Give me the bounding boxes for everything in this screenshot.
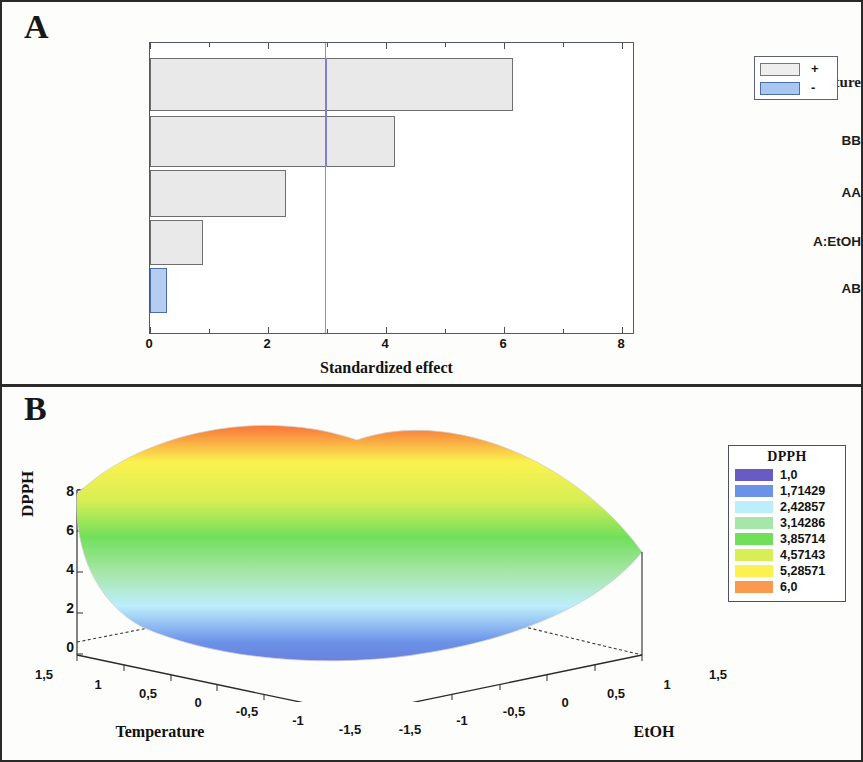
- response-surface: [42, 402, 682, 702]
- colorbar-swatch: [735, 485, 773, 497]
- bottom-tick: [445, 329, 446, 333]
- panel-a-label: A: [24, 8, 49, 46]
- colorbar-value-label: 3,85714: [780, 532, 825, 546]
- bottom-tick: [209, 329, 210, 333]
- legend-swatch-negative: [760, 82, 800, 95]
- bottom-tick: [327, 329, 328, 333]
- colorbar-level-row: 2,42857: [735, 499, 839, 515]
- x-axis-title: Standardized effect: [320, 359, 453, 377]
- colorbar-level-row: 4,57143: [735, 547, 839, 563]
- x-tick-label-4: 4: [381, 336, 388, 351]
- colorbar-swatch: [735, 581, 773, 593]
- legend-label-positive: +: [811, 64, 819, 74]
- colorbar-level-row: 1,71429: [735, 483, 839, 499]
- category-label-a-etoh: A:EtOH: [721, 234, 861, 249]
- colorbar-swatch: [735, 565, 773, 577]
- colorbar-value-label: 5,28571: [780, 564, 825, 578]
- bottom-tick: [150, 327, 151, 333]
- surface-plot-graphic: [2, 402, 702, 702]
- etoh-tick-neg1_5: -1,5: [399, 722, 421, 737]
- temperature-axis-title: Temperature: [116, 723, 205, 741]
- top-tick: [445, 43, 446, 47]
- colorbar-levels: 1,01,714292,428573,142863,857144,571435,…: [735, 467, 839, 595]
- colorbar-level-row: 1,0: [735, 467, 839, 483]
- legend-row-negative: -: [760, 80, 832, 96]
- pareto-bar-aa: [150, 170, 286, 217]
- colorbar-level-row: 5,28571: [735, 563, 839, 579]
- colorbar-value-label: 3,14286: [780, 516, 825, 530]
- colorbar-value-label: 1,71429: [780, 484, 825, 498]
- etoh-tick-1_5: 1,5: [709, 667, 727, 682]
- axis-box-front: [77, 655, 642, 702]
- x-tick-label-6: 6: [499, 336, 506, 351]
- temperature-tick-1: 1: [94, 677, 101, 692]
- temperature-tick-0_5: 0,5: [139, 686, 157, 701]
- top-tick: [386, 43, 387, 49]
- pareto-bar-b-temperature: [150, 58, 513, 111]
- bottom-tick: [622, 327, 623, 333]
- etoh-axis-title: EtOH: [634, 723, 675, 741]
- top-tick: [563, 43, 564, 47]
- colorbar-swatch: [735, 469, 773, 481]
- temperature-axis-ticks: [77, 655, 357, 702]
- significance-threshold-line-highlight: [325, 58, 327, 167]
- colorbar-swatch: [735, 517, 773, 529]
- temperature-tick-neg1_5: -1,5: [339, 722, 361, 737]
- temperature-tick-0: 0: [194, 695, 201, 710]
- panel-a-pareto-chart: A B: Temperature BB AA A:EtOH AB: [2, 2, 861, 387]
- x-tick-label-8: 8: [617, 336, 624, 351]
- figure-container: A B: Temperature BB AA A:EtOH AB: [0, 0, 863, 762]
- colorbar-swatch: [735, 533, 773, 545]
- colorbar-value-label: 1,0: [780, 468, 797, 482]
- top-tick: [209, 43, 210, 47]
- colorbar-value-label: 2,42857: [780, 500, 825, 514]
- top-tick: [622, 43, 623, 49]
- colorbar-level-row: 6,0: [735, 579, 839, 595]
- temperature-tick-1_5: 1,5: [35, 667, 53, 682]
- pareto-legend: + -: [754, 56, 838, 100]
- etoh-tick-0: 0: [561, 695, 568, 710]
- top-tick: [504, 43, 505, 49]
- legend-row-positive: +: [760, 61, 832, 77]
- colorbar-swatch: [735, 501, 773, 513]
- colorbar-title: DPPH: [735, 449, 839, 465]
- x-tick-label-0: 0: [145, 336, 152, 351]
- pareto-plot-area: [149, 42, 634, 334]
- bottom-tick: [268, 327, 269, 333]
- etoh-tick-neg0_5: -0,5: [503, 704, 525, 719]
- colorbar-value-label: 4,57143: [780, 548, 825, 562]
- legend-label-negative: -: [811, 83, 815, 93]
- pareto-bar-a-etoh: [150, 220, 203, 265]
- colorbar-level-row: 3,14286: [735, 515, 839, 531]
- pareto-bar-ab: [150, 268, 167, 313]
- top-tick: [268, 43, 269, 49]
- category-label-ab: AB: [721, 281, 861, 296]
- etoh-axis-ticks: [357, 655, 642, 702]
- colorbar-value-label: 6,0: [780, 580, 797, 594]
- category-label-bb: BB: [721, 133, 861, 148]
- bottom-tick: [504, 327, 505, 333]
- temperature-tick-neg0_5: -0,5: [236, 704, 258, 719]
- pareto-bar-bb: [150, 116, 395, 167]
- temperature-tick-neg1: -1: [292, 713, 304, 728]
- category-label-aa: AA: [721, 185, 861, 200]
- top-tick: [150, 43, 151, 49]
- surface-colorbar-legend: DPPH 1,01,714292,428573,142863,857144,57…: [728, 445, 846, 602]
- bottom-tick: [563, 329, 564, 333]
- x-tick-label-2: 2: [263, 336, 270, 351]
- etoh-tick-0_5: 0,5: [607, 686, 625, 701]
- colorbar-swatch: [735, 549, 773, 561]
- bottom-tick: [386, 327, 387, 333]
- top-tick: [327, 43, 328, 47]
- colorbar-level-row: 3,85714: [735, 531, 839, 547]
- etoh-tick-neg1: -1: [456, 713, 468, 728]
- etoh-tick-1: 1: [663, 677, 670, 692]
- legend-swatch-positive: [760, 63, 800, 76]
